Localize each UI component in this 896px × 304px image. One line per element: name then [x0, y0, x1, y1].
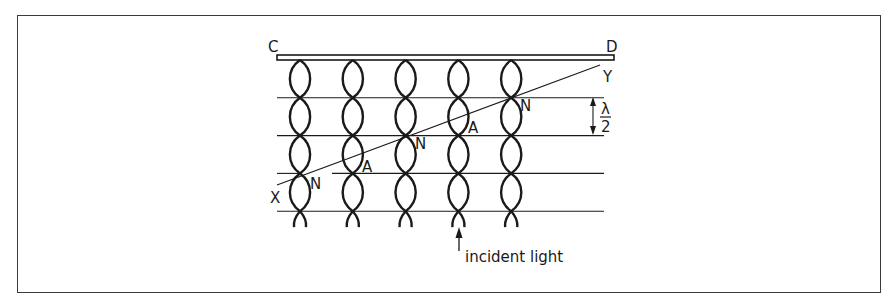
- fiber-2: [343, 60, 363, 227]
- half-wavelength-dimension: λ 2: [590, 97, 611, 136]
- label-lambda: λ: [601, 100, 610, 118]
- standing-wave-diagram: C D X Y N A N A N λ 2 incident light: [0, 0, 896, 304]
- wave-loop: [448, 98, 468, 136]
- wave-loop: [290, 136, 310, 174]
- wave-loop: [501, 173, 521, 211]
- wave-tail: [505, 211, 517, 227]
- reflecting-plate: [277, 55, 614, 60]
- standing-wave-fibers: [290, 60, 521, 227]
- incident-light-label: incident light: [465, 248, 563, 266]
- wave-tail: [347, 211, 359, 227]
- wave-loop: [395, 98, 415, 136]
- label-y: Y: [602, 68, 613, 86]
- wave-loop: [343, 98, 363, 136]
- label-d: D: [606, 38, 618, 56]
- wave-loop: [395, 60, 415, 98]
- fiber-5: [501, 60, 521, 227]
- section-line-xy: [277, 65, 600, 185]
- wave-loop: [448, 60, 468, 98]
- wave-loop: [290, 60, 310, 98]
- wave-loop: [501, 98, 521, 136]
- label-antinode-2: A: [468, 119, 479, 137]
- label-node-3: N: [520, 97, 531, 115]
- arrow-down-icon: [590, 126, 596, 135]
- fiber-1: [290, 60, 310, 227]
- wave-loop: [448, 173, 468, 211]
- wave-loop: [395, 136, 415, 174]
- wave-tail: [294, 211, 306, 227]
- wave-loop: [395, 173, 415, 211]
- wave-loop: [290, 98, 310, 136]
- wave-loop: [501, 136, 521, 174]
- wave-loop: [501, 60, 521, 98]
- wave-loop: [343, 60, 363, 98]
- wave-loop: [343, 173, 363, 211]
- wave-loop: [448, 136, 468, 174]
- label-node-2: N: [415, 135, 426, 153]
- arrow-up-icon: [456, 227, 463, 238]
- label-two: 2: [601, 118, 611, 136]
- wave-tail: [452, 211, 464, 227]
- label-x: X: [270, 189, 280, 207]
- incident-light-arrow: [456, 227, 463, 251]
- wave-tail: [399, 211, 411, 227]
- nodal-planes: [277, 98, 604, 211]
- label-c: C: [268, 38, 278, 56]
- fiber-4: [448, 60, 468, 227]
- fiber-3: [395, 60, 415, 227]
- label-node-1: N: [310, 175, 321, 193]
- label-antinode-1: A: [362, 158, 373, 176]
